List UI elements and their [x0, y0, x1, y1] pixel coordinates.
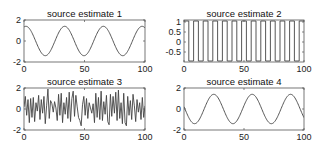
x-tick-label: 50 — [239, 64, 249, 74]
signal-line — [184, 21, 304, 61]
y-tick-label: -2 — [13, 57, 21, 67]
x-tick-label: 0 — [181, 132, 186, 142]
x-tick-label: 50 — [239, 132, 249, 142]
signal-line — [184, 94, 304, 123]
y-tick-label: -0.5 — [165, 47, 181, 57]
axes-box — [184, 88, 304, 130]
x-tick-label: 0 — [21, 132, 26, 142]
y-tick-label: 1 — [176, 17, 181, 27]
x-tick-label: 0 — [21, 64, 26, 74]
subplot-title: source estimate 3 — [47, 76, 122, 87]
y-tick-label: 2 — [16, 15, 21, 25]
y-tick-label: 0.5 — [168, 27, 181, 37]
figure: source estimate 1 050100-202 source esti… — [0, 0, 320, 155]
subplot-source-estimate-3: source estimate 3 050100-202 — [13, 76, 153, 142]
y-tick-label: 0 — [16, 36, 21, 46]
signal-line — [24, 89, 145, 126]
subplot-title: source estimate 4 — [207, 76, 282, 87]
x-tick-label: 100 — [296, 64, 311, 74]
subplot-source-estimate-4: source estimate 4 050100-202 — [173, 76, 312, 142]
y-tick-label: 2 — [176, 83, 181, 93]
subplot-title: source estimate 2 — [207, 8, 282, 19]
x-tick-label: 100 — [137, 132, 152, 142]
x-tick-label: 100 — [137, 64, 152, 74]
y-tick-label: -2 — [13, 125, 21, 135]
subplot-title: source estimate 1 — [47, 8, 122, 19]
x-tick-label: 0 — [181, 64, 186, 74]
y-tick-label: -2 — [173, 125, 181, 135]
subplot-source-estimate-2: source estimate 2 050100-0.500.51 — [165, 8, 311, 74]
signal-line — [24, 26, 145, 55]
x-tick-label: 50 — [79, 64, 89, 74]
y-tick-label: 0 — [16, 104, 21, 114]
y-tick-label: 0 — [176, 104, 181, 114]
x-tick-label: 50 — [79, 132, 89, 142]
subplot-source-estimate-1: source estimate 1 050100-202 — [13, 8, 153, 74]
y-tick-label: 0 — [176, 37, 181, 47]
y-tick-label: 2 — [16, 83, 21, 93]
axes-box — [184, 20, 304, 62]
x-tick-label: 100 — [296, 132, 311, 142]
